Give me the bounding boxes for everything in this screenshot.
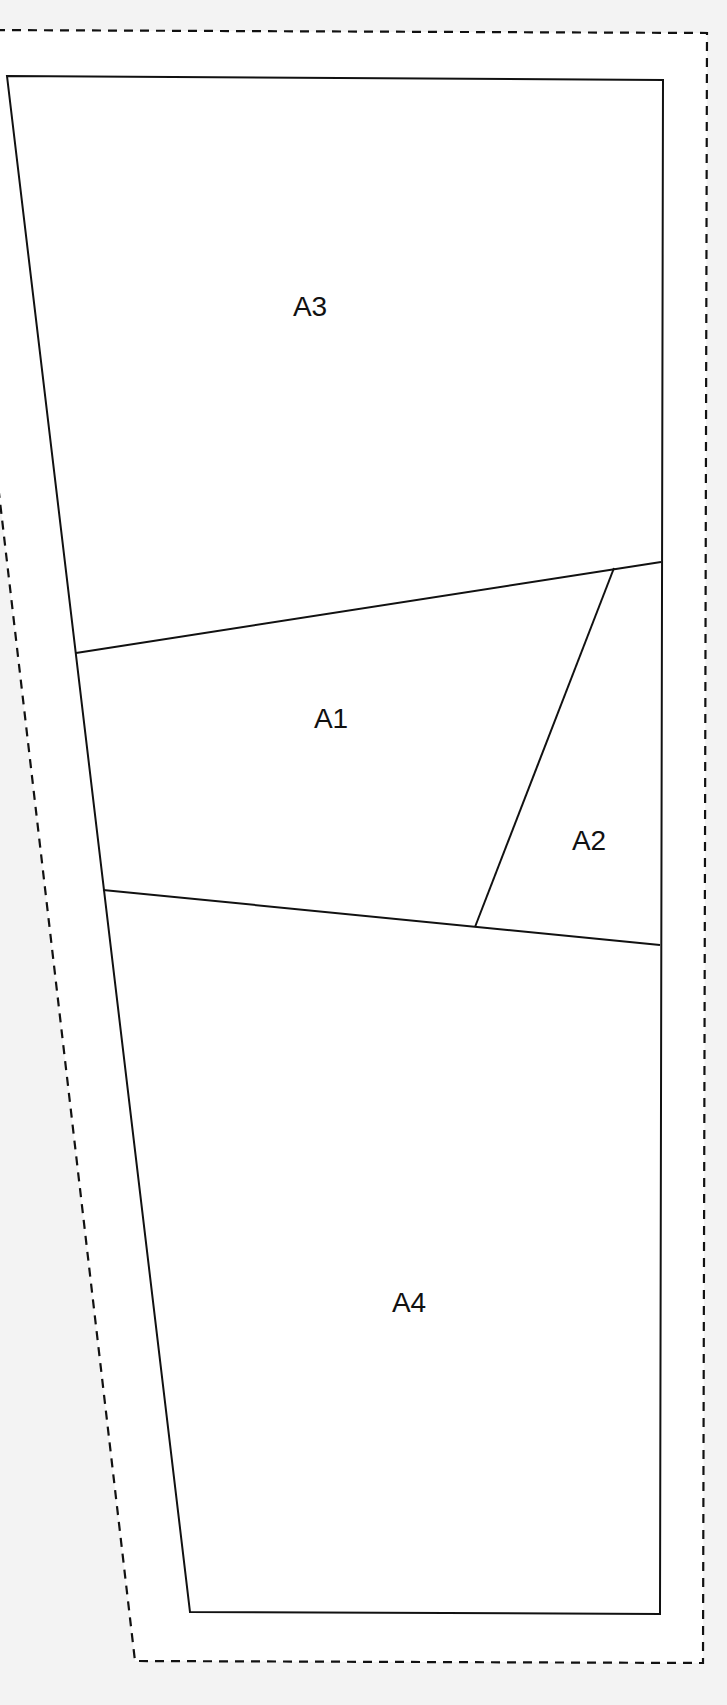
section-label-a2: A2 [572,825,606,857]
section-label-a4: A4 [392,1287,426,1319]
pattern-canvas [0,0,727,1705]
section-label-a3: A3 [293,291,327,323]
section-label-a1: A1 [314,703,348,735]
